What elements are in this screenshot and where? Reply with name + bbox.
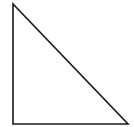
- right-triangle: [13, 4, 128, 124]
- triangle-diagram: [0, 0, 134, 127]
